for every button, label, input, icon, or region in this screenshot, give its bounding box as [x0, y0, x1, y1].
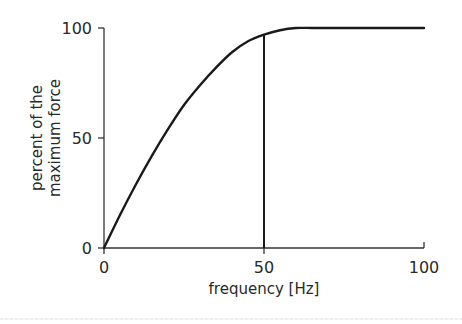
y-axis [98, 28, 104, 248]
force-frequency-chart: 100 50 0 0 50 100 frequency [Hz] percent… [0, 0, 462, 324]
x-tick-label-50: 50 [254, 258, 274, 277]
y-tick-label-0: 0 [82, 239, 92, 258]
x-tick-label-100: 100 [409, 258, 440, 277]
x-axis-label: frequency [Hz] [209, 280, 320, 298]
bottom-divider [0, 318, 462, 320]
x-tick-label-0: 0 [99, 258, 109, 277]
y-tick-label-100: 100 [61, 19, 92, 38]
y-axis-label-line2: maximum force [46, 79, 64, 197]
y-axis-label-line1: percent of the [28, 85, 46, 191]
y-tick-label-50: 50 [72, 129, 92, 148]
